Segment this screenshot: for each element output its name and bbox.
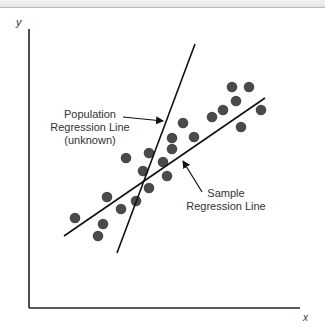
population-label-line1: Population (64, 108, 116, 120)
regression-chart: y x Population Regression Line (unknown)… (0, 0, 325, 330)
data-point (236, 122, 247, 133)
population-label-line2: Regression Line (50, 121, 130, 133)
scatter-points (70, 82, 267, 242)
sample-label-line2: Regression Line (186, 200, 266, 212)
data-point (207, 112, 218, 123)
data-point (162, 171, 173, 182)
data-point (167, 144, 178, 155)
sample-label-line1: Sample (207, 187, 244, 199)
y-axis-label: y (15, 16, 23, 28)
data-point (256, 105, 267, 116)
data-point (102, 192, 113, 203)
data-point (167, 133, 178, 144)
data-point (227, 82, 238, 93)
data-point (189, 132, 200, 143)
data-point (244, 82, 255, 93)
population-label-line3: (unknown) (64, 134, 115, 146)
sample-annotation: Sample Regression Line (183, 161, 266, 212)
data-point (70, 213, 81, 224)
population-annotation: Population Regression Line (unknown) (50, 108, 163, 146)
data-point (218, 105, 229, 116)
data-point (231, 96, 242, 107)
data-point (93, 231, 104, 242)
x-axis-label: x (302, 312, 309, 323)
data-point (98, 219, 109, 230)
data-point (116, 204, 127, 215)
data-point (178, 118, 189, 129)
population-regression-line (117, 44, 195, 253)
data-point (144, 183, 155, 194)
sample-arrow (183, 161, 202, 192)
data-point (121, 153, 132, 164)
